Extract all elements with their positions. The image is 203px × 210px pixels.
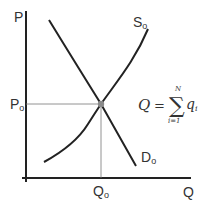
equilibrium-quantity-label: Qo (93, 183, 109, 200)
formula-term: qi (186, 96, 198, 113)
aggregate-quantity-formula: Q = ∑ N i=1 qi (138, 85, 198, 125)
formula-sum-symbol: ∑ (169, 93, 185, 118)
demand-curve (49, 20, 136, 166)
demand-label: Do (141, 149, 156, 166)
formula-lower-limit: i=1 (168, 117, 181, 125)
equilibrium-price-label: Po (10, 96, 24, 113)
x-axis-label: Q (183, 184, 194, 200)
supply-label: So (133, 14, 147, 31)
formula-equals: = (154, 98, 165, 113)
formula-upper-limit: N (174, 85, 182, 93)
formula-lhs: Q (138, 96, 150, 114)
supply-demand-diagram: P Q So Do Po Qo Q = ∑ N i=1 qi (0, 0, 203, 210)
y-axis-label: P (14, 9, 23, 25)
equilibrium-point (98, 101, 104, 107)
